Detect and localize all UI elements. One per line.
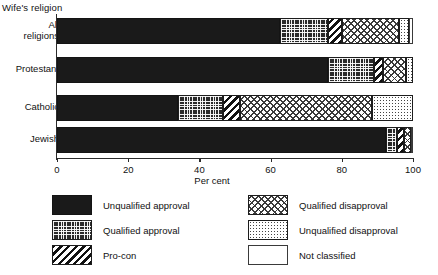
category-label-catholic: Catholic — [25, 102, 59, 113]
segment-jewish-qualified-disapproval — [404, 127, 411, 153]
legend-item-unqualified-disapproval[interactable]: Unqualified disapproval — [248, 221, 438, 239]
x-tick-40 — [199, 158, 200, 162]
x-tick-80 — [342, 158, 343, 162]
segment-all-religions-unqualified-disapproval — [399, 18, 410, 44]
segment-protestant-unqualified-approval — [57, 57, 328, 83]
legend-item-unqualified-approval[interactable]: Unqualified approval — [52, 196, 242, 214]
legend-item-not-classified[interactable]: Not classified — [248, 246, 438, 264]
segment-protestant-pro-con — [374, 57, 383, 83]
x-tick-label-0: 0 — [40, 164, 74, 175]
legend-item-qualified-approval[interactable]: Qualified approval — [52, 221, 242, 239]
segment-jewish-pro-con — [397, 127, 404, 153]
x-tick-label-80: 80 — [325, 164, 359, 175]
legend-swatch-pro-con — [52, 245, 92, 265]
legend-label-pro-con: Pro-con — [103, 250, 136, 261]
segment-all-religions-unqualified-approval — [57, 18, 280, 44]
segment-catholic-unqualified-approval — [57, 95, 178, 121]
x-axis-title-text: Per cent — [194, 175, 229, 186]
segment-all-religions-qualified-disapproval — [342, 18, 399, 44]
legend-label-unqualified-approval: Unqualified approval — [103, 200, 190, 211]
category-label-jewish: Jewish — [30, 134, 59, 145]
bar-catholic — [57, 95, 413, 121]
y-axis-title: Wife's religion — [2, 2, 62, 13]
x-tick-20 — [128, 158, 129, 162]
legend-swatch-qualified-approval — [52, 220, 92, 240]
x-tick-label-60: 60 — [254, 164, 288, 175]
segment-jewish-not-classified — [411, 127, 413, 153]
segment-all-religions-pro-con — [328, 18, 342, 44]
legend-swatch-not-classified — [248, 245, 288, 265]
x-tick-label-40: 40 — [182, 164, 216, 175]
legend-label-qualified-approval: Qualified approval — [103, 225, 180, 236]
segment-protestant-qualified-disapproval — [383, 57, 406, 83]
x-tick-0 — [57, 158, 58, 162]
x-tick-label-100: 100 — [396, 164, 430, 175]
segment-catholic-qualified-approval — [178, 95, 223, 121]
x-tick-100 — [413, 158, 414, 162]
plot-area — [57, 15, 413, 158]
legend-item-pro-con[interactable]: Pro-con — [52, 246, 242, 264]
bar-all-religions — [57, 18, 413, 44]
legend-swatch-unqualified-approval — [52, 195, 92, 215]
bar-jewish — [57, 127, 413, 153]
category-label-all-religions: All religions — [24, 20, 59, 41]
legend-swatch-unqualified-disapproval — [248, 220, 288, 240]
legend-item-qualified-disapproval[interactable]: Qualified disapproval — [248, 196, 438, 214]
x-axis-title: Per cent — [0, 175, 438, 186]
segment-protestant-qualified-approval — [328, 57, 374, 83]
legend-column-left: Unqualified approvalQualified approvalPr… — [52, 196, 242, 271]
x-axis-line — [56, 158, 414, 159]
legend-label-not-classified: Not classified — [299, 250, 356, 261]
bar-protestant — [57, 57, 413, 83]
legend-label-qualified-disapproval: Qualified disapproval — [299, 200, 388, 211]
segment-protestant-unqualified-disapproval — [406, 57, 413, 83]
segment-catholic-pro-con — [223, 95, 241, 121]
category-label-protestant: Protestant — [16, 64, 59, 75]
legend: Unqualified approvalQualified approvalPr… — [52, 196, 432, 268]
segment-catholic-unqualified-disapproval — [372, 95, 413, 121]
x-tick-label-20: 20 — [111, 164, 145, 175]
legend-label-unqualified-disapproval: Unqualified disapproval — [299, 225, 398, 236]
segment-catholic-qualified-disapproval — [240, 95, 372, 121]
segment-jewish-qualified-approval — [386, 127, 397, 153]
x-tick-60 — [271, 158, 272, 162]
segment-all-religions-qualified-approval — [280, 18, 328, 44]
stacked-bar-chart: Wife's religion All religions Protestant… — [0, 0, 438, 275]
legend-column-right: Qualified disapprovalUnqualified disappr… — [248, 196, 438, 271]
segment-all-religions-not-classified — [409, 18, 413, 44]
legend-swatch-qualified-disapproval — [248, 195, 288, 215]
segment-jewish-unqualified-approval — [57, 127, 386, 153]
